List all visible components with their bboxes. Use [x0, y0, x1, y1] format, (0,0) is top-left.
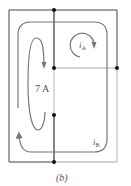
node-center — [52, 66, 56, 70]
circuit-diagram: 7 A iA iB (b) — [0, 0, 131, 186]
circuit-nodes — [52, 8, 119, 164]
node-bottom — [52, 160, 56, 164]
node-right — [115, 66, 119, 70]
node-lower — [52, 113, 56, 117]
mesh-current-a-label: iA — [79, 40, 87, 51]
source-7a-arrowhead-icon — [42, 62, 47, 69]
mesh-current-b-label: iB — [93, 137, 100, 148]
circuit-wires — [9, 10, 117, 162]
loop-ia-arrowhead-icon — [92, 42, 97, 49]
node-top — [52, 8, 56, 12]
source-label: 7 A — [35, 83, 50, 94]
figure-caption: (b) — [56, 172, 68, 184]
